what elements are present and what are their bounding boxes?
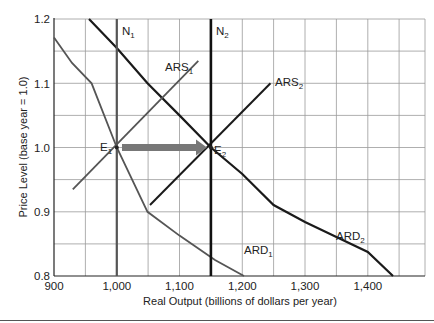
y-tick-labels: 0.8 0.9 1.0 1.1 1.2 (34, 13, 50, 282)
svg-text:1.2: 1.2 (34, 13, 50, 25)
ard1-label: ARD1 (244, 244, 273, 259)
n2-label: N2 (216, 25, 229, 40)
svg-text:1,200: 1,200 (228, 280, 257, 292)
n1-label: N1 (122, 25, 135, 40)
svg-text:1,300: 1,300 (291, 280, 320, 292)
x-tick-labels: 900 1,000 1,100 1,200 1,300 1,400 (44, 280, 382, 292)
ars2-label: ARS2 (275, 76, 304, 91)
svg-text:1,100: 1,100 (165, 280, 194, 292)
ard1-curve (54, 37, 244, 276)
shift-arrow (122, 140, 207, 156)
svg-text:1,000: 1,000 (102, 280, 131, 292)
svg-text:0.9: 0.9 (34, 206, 50, 218)
svg-text:1,400: 1,400 (353, 280, 382, 292)
e1-point (115, 146, 119, 150)
e2-point (209, 146, 213, 150)
svg-text:900: 900 (44, 280, 63, 292)
svg-text:1.0: 1.0 (34, 142, 50, 154)
x-axis-title: Real Output (billions of dollars per yea… (143, 295, 337, 307)
chart-canvas: N1 N2 ARS1 ARS2 ARD1 ARD2 E1 E2 0.8 0.9 … (0, 0, 434, 323)
y-axis-title: Price Level (base year = 1.0) (17, 77, 29, 218)
svg-text:1.1: 1.1 (34, 78, 50, 90)
